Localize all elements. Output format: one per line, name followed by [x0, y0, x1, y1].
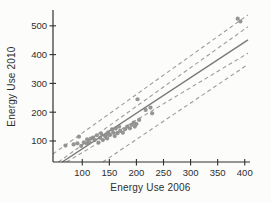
- x-tick-label: 250: [156, 167, 172, 178]
- prediction-upper-band-line: [53, 15, 248, 154]
- data-point: [79, 144, 83, 148]
- x-tick-label: 200: [128, 167, 144, 178]
- y-tick-label: 500: [31, 20, 47, 31]
- x-tick-label: 350: [210, 167, 226, 178]
- data-point: [99, 132, 103, 136]
- data-point: [77, 135, 81, 139]
- x-tick-label: 100: [74, 167, 90, 178]
- scatter-plot: 100150200250300350400100200300400500: [0, 0, 271, 203]
- data-point: [134, 122, 138, 126]
- data-point: [121, 131, 125, 135]
- data-point: [150, 111, 154, 115]
- data-point: [117, 124, 121, 128]
- confidence-lower-band-line: [67, 53, 248, 162]
- data-point: [135, 97, 139, 101]
- x-tick-label: 400: [237, 167, 253, 178]
- x-tick-label: 150: [101, 167, 117, 178]
- y-axis-label: Energy Use 2010: [6, 17, 19, 157]
- x-axis-label: Energy Use 2006: [53, 182, 248, 193]
- data-point: [105, 136, 109, 140]
- y-tick-label: 300: [31, 78, 47, 89]
- y-tick-label: 400: [31, 49, 47, 60]
- data-point: [71, 142, 75, 146]
- data-point: [148, 105, 152, 109]
- y-tick-label: 100: [31, 135, 47, 146]
- data-point: [95, 133, 99, 137]
- data-point: [137, 118, 141, 122]
- data-point: [101, 138, 105, 142]
- data-point: [75, 141, 79, 145]
- y-tick-label: 200: [31, 107, 47, 118]
- data-point: [87, 140, 91, 144]
- data-point: [238, 19, 242, 23]
- x-tick-label: 300: [183, 167, 199, 178]
- data-point: [93, 138, 97, 142]
- scatter-figure: 100150200250300350400100200300400500 Ene…: [0, 0, 271, 203]
- data-point: [96, 141, 100, 145]
- data-point: [63, 143, 67, 147]
- data-point: [144, 108, 148, 112]
